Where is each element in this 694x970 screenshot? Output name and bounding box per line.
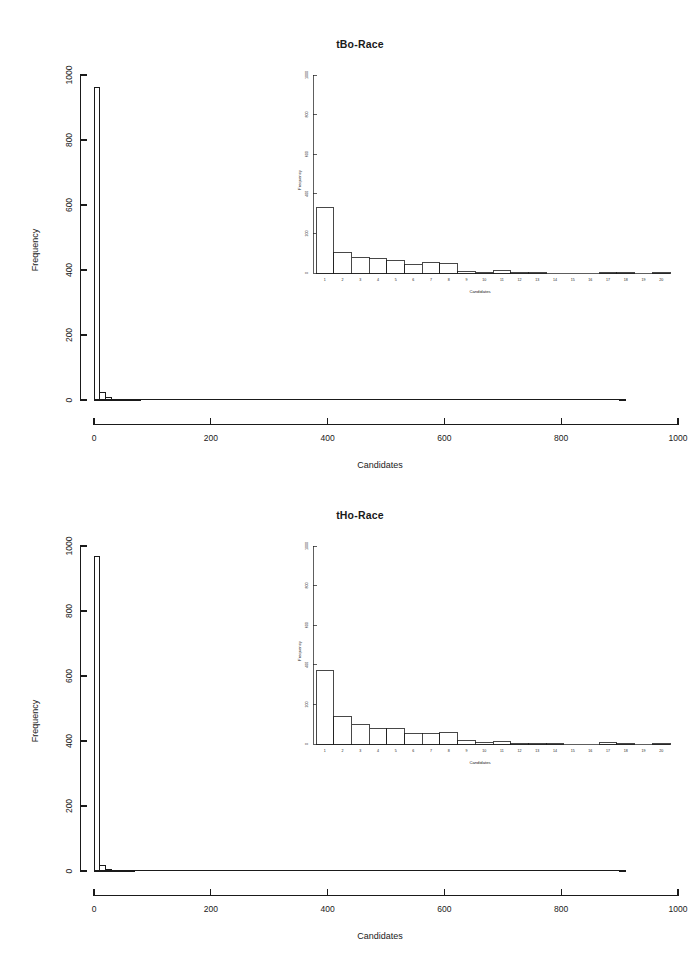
x-tick-label-600: 600 xyxy=(437,904,451,914)
inset-y-tick-label-600: 600 xyxy=(305,151,309,157)
inset-histogram-bar xyxy=(316,207,334,273)
y-axis-line xyxy=(81,75,87,400)
inset-histogram-bars xyxy=(316,670,670,744)
chart-title: tHo-Race xyxy=(336,509,384,521)
inset-x-tick-label: 15 xyxy=(571,749,575,753)
inset-x-tick-label: 11 xyxy=(500,278,504,282)
inset-y-tick-label-800: 800 xyxy=(305,112,309,118)
y-axis-title: Frequency xyxy=(30,699,40,742)
inset-x-tick-label: 8 xyxy=(448,749,450,753)
inset-x-tick-label: 18 xyxy=(624,278,628,282)
y-tick-label-600: 600 xyxy=(64,669,74,683)
y-tick-label-200: 200 xyxy=(64,328,74,342)
inset-y-axis-title: Frequency xyxy=(297,169,302,190)
x-tick-label-0: 0 xyxy=(92,904,97,914)
inset-histogram-bar xyxy=(493,742,511,744)
inset-x-tick-label: 9 xyxy=(465,278,467,282)
inset-x-tick-labels: 1234567891011121314151617181920 xyxy=(324,278,663,282)
inset-histogram-bar xyxy=(475,272,493,273)
inset-histogram-bar xyxy=(334,716,352,744)
inset-x-tick-label: 5 xyxy=(395,278,397,282)
x-tick-label-400: 400 xyxy=(321,433,335,443)
x-tick-label-1000: 1000 xyxy=(669,433,688,443)
inset-y-tick-label-600: 600 xyxy=(305,622,309,628)
x-axis-title: Candidates xyxy=(357,931,403,941)
x-tick-label-0: 0 xyxy=(92,433,97,443)
x-tick-label-200: 200 xyxy=(204,433,218,443)
inset-x-tick-label: 18 xyxy=(624,749,628,753)
y-axis-line xyxy=(81,546,87,871)
inset-histogram-bars xyxy=(316,207,670,273)
inset-x-tick-label: 16 xyxy=(588,278,592,282)
inset-histogram-bar xyxy=(493,271,511,273)
x-tick-label-800: 800 xyxy=(554,904,568,914)
inset-x-tick-label: 14 xyxy=(553,278,557,282)
inset-histogram-bar xyxy=(599,743,617,744)
inset-histogram-bar xyxy=(405,733,423,744)
chart-panel-bottom: tHo-Race 0 200 400 600 800 1000 Frequenc… xyxy=(0,485,694,970)
histogram-plot-tho-race: tHo-Race 0 200 400 600 800 1000 Frequenc… xyxy=(0,485,694,970)
inset-histogram-bar xyxy=(351,257,369,273)
inset-y-tick-label-0: 0 xyxy=(305,272,309,274)
histogram-plot-tbo-race: tBo-Race 0 200 400 600 800 1000 Frequenc… xyxy=(0,0,694,485)
inset-x-tick-label: 9 xyxy=(465,749,467,753)
y-tick-label-800: 800 xyxy=(64,133,74,147)
y-axis-title: Frequency xyxy=(30,228,40,271)
inset-x-tick-label: 5 xyxy=(395,749,397,753)
inset-x-tick-label: 6 xyxy=(412,278,414,282)
histogram-bar xyxy=(94,87,100,400)
inset-x-tick-label: 13 xyxy=(535,749,539,753)
inset-x-tick-label: 6 xyxy=(412,749,414,753)
inset-x-tick-label: 2 xyxy=(342,749,344,753)
inset-histogram-bar xyxy=(458,740,476,744)
inset-x-tick-label: 13 xyxy=(535,278,539,282)
y-tick-label-400: 400 xyxy=(64,263,74,277)
y-tick-label-0: 0 xyxy=(64,397,74,402)
inset-x-tick-label: 3 xyxy=(359,278,361,282)
inset-x-tick-label: 4 xyxy=(377,749,379,753)
inset-histogram-bar xyxy=(511,743,529,744)
inset-histogram-bar xyxy=(475,743,493,744)
inset-histogram-bar xyxy=(387,728,405,744)
inset-x-tick-label: 15 xyxy=(571,278,575,282)
x-tick-label-400: 400 xyxy=(321,904,335,914)
inset-histogram-bar xyxy=(422,263,440,273)
inset-x-tick-label: 11 xyxy=(500,749,504,753)
y-tick-label-600: 600 xyxy=(64,198,74,212)
chart-panel-top: tBo-Race 0 200 400 600 800 1000 Frequenc… xyxy=(0,0,694,485)
inset-x-tick-label: 12 xyxy=(518,749,522,753)
inset-y-tick-label-400: 400 xyxy=(305,191,309,197)
inset-x-tick-label: 19 xyxy=(641,749,645,753)
inset-x-tick-label: 10 xyxy=(482,278,486,282)
inset-histogram-bar xyxy=(405,264,423,273)
x-tick-label-200: 200 xyxy=(204,904,218,914)
inset-x-tick-label: 7 xyxy=(430,749,432,753)
inset-x-tick-label: 17 xyxy=(606,749,610,753)
inset-histogram-bar xyxy=(351,724,369,744)
inset-x-tick-label: 20 xyxy=(659,749,663,753)
y-tick-label-200: 200 xyxy=(64,799,74,813)
figure-page: tBo-Race 0 200 400 600 800 1000 Frequenc… xyxy=(0,0,694,970)
inset-x-tick-label: 1 xyxy=(324,278,326,282)
inset-x-tick-labels: 1234567891011121314151617181920 xyxy=(324,749,663,753)
y-tick-label-1000: 1000 xyxy=(64,536,74,555)
inset-x-tick-label: 7 xyxy=(430,278,432,282)
inset-histogram-bar xyxy=(440,263,458,273)
inset-histogram-bar xyxy=(511,272,529,273)
inset-histogram-bar xyxy=(387,261,405,273)
inset-x-axis-title: Candidates xyxy=(469,760,490,765)
x-axis-title: Candidates xyxy=(357,460,403,470)
inset-y-tick-label-1000: 1000 xyxy=(305,71,309,79)
y-tick-label-400: 400 xyxy=(64,734,74,748)
inset-x-tick-label: 16 xyxy=(588,749,592,753)
y-tick-label-1000: 1000 xyxy=(64,65,74,84)
histogram-bar xyxy=(94,556,100,871)
histogram-bar xyxy=(100,393,106,400)
inset-x-tick-label: 8 xyxy=(448,278,450,282)
inset-histogram-bar xyxy=(440,733,458,744)
inset-y-axis-title: Frequency xyxy=(297,640,302,661)
inset-histogram-bar xyxy=(316,670,334,744)
inset-histogram-bar xyxy=(599,272,617,273)
inset-x-tick-label: 20 xyxy=(659,278,663,282)
inset-y-tick-label-1000: 1000 xyxy=(305,542,309,550)
